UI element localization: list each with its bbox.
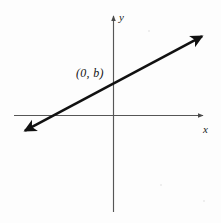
scan-speck [160, 184, 162, 186]
graph-canvas [0, 0, 221, 223]
scan-speck [148, 30, 150, 32]
graph-figure: y x (0, b) [0, 0, 221, 223]
scan-speck [203, 200, 205, 202]
x-axis-label: x [203, 124, 208, 135]
y-intercept-label: (0, b) [76, 67, 104, 79]
y-axis-label: y [119, 12, 124, 23]
